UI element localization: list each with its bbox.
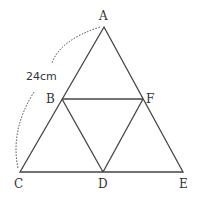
point-label-c: C bbox=[14, 177, 23, 191]
measure-arc-upper bbox=[52, 27, 100, 63]
segment-FD bbox=[103, 99, 143, 172]
segment-BD bbox=[62, 99, 103, 172]
point-label-b: B bbox=[46, 92, 55, 106]
geometry-diagram: 24cm A B F C D E bbox=[0, 0, 199, 199]
measurement-label: 24cm bbox=[26, 70, 57, 83]
point-label-d: D bbox=[98, 177, 108, 191]
point-label-e: E bbox=[179, 177, 188, 191]
measure-arc-lower bbox=[16, 92, 34, 168]
point-label-f: F bbox=[146, 92, 154, 106]
point-label-a: A bbox=[98, 9, 108, 23]
